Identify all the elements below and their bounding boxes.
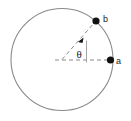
angle-label-theta: θ [77, 48, 82, 60]
point-marker-b [92, 17, 99, 24]
figure-canvas: a b θ [0, 0, 131, 121]
point-label-a: a [116, 56, 121, 66]
point-label-b: b [103, 14, 108, 24]
circle-angle-diagram: a b θ [0, 0, 131, 121]
point-marker-a [107, 56, 114, 63]
